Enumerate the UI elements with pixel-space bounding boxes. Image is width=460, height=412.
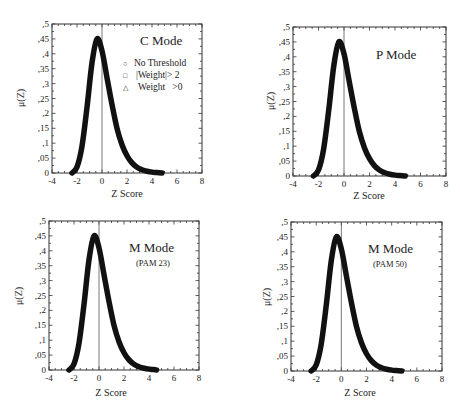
y-tick-label: ,1: [283, 141, 290, 151]
y-tick-label: ,5: [39, 216, 46, 226]
y-tick-label: ,5: [281, 217, 288, 227]
y-tick-label: ,5: [42, 19, 49, 29]
chart-panel-c-mode: -4-2024680,05,1,15,2,25,3,35,4,45,5 C Mo…: [0, 0, 230, 200]
y-tick-label: ,3: [283, 82, 290, 92]
x-tick-label: 6: [175, 176, 180, 186]
y-tick-label: ,4: [281, 247, 288, 257]
y-tick-label: ,45: [277, 232, 289, 242]
x-tick-label: -2: [70, 373, 78, 383]
chart-panel-m-mode-pam50: -4-2024680,05,1,15,2,25,3,35,4,45,5 M Mo…: [230, 200, 460, 412]
x-tick-label: -4: [45, 373, 53, 383]
y-tick-label: ,35: [279, 67, 291, 77]
x-tick-label: 6: [418, 179, 423, 189]
chart-title: M Mode: [368, 241, 413, 256]
y-tick-label: ,25: [38, 94, 50, 104]
y-tick-label: ,05: [38, 153, 50, 163]
legend-marker-square-icon: □: [123, 72, 128, 80]
y-axis-title: μ(Z): [265, 92, 277, 110]
x-axis-title: Z Score: [111, 188, 143, 199]
x-tick-label: 0: [339, 374, 344, 384]
y-tick-label: ,2: [39, 305, 46, 315]
y-tick-label: ,3: [281, 277, 288, 287]
x-tick-label: 6: [415, 374, 420, 384]
chart-svg: -4-2024680,05,1,15,2,25,3,35,4,45,5 P Mo…: [230, 0, 460, 200]
x-tick-label: 8: [440, 374, 445, 384]
legend-label-weight-positive: Weight >0: [138, 82, 183, 92]
x-tick-label: -2: [73, 176, 81, 186]
y-tick-label: 0: [284, 366, 289, 376]
x-tick-label: 4: [393, 179, 398, 189]
y-axis-title: μ(Z): [261, 288, 273, 306]
distribution-curve: [311, 237, 402, 371]
y-tick-label: ,25: [279, 97, 291, 107]
y-tick-label: ,15: [277, 321, 289, 331]
chart-subtitle: (PAM 23): [136, 258, 170, 268]
y-tick-label: ,5: [283, 22, 290, 32]
y-tick-label: ,35: [35, 261, 47, 271]
x-tick-label: 2: [367, 179, 372, 189]
y-tick-label: ,25: [35, 291, 47, 301]
y-axis-title: μ(Z): [13, 287, 25, 305]
y-tick-label: ,35: [38, 64, 50, 74]
y-tick-label: ,4: [283, 52, 290, 62]
x-tick-label: 8: [444, 179, 449, 189]
x-tick-label: 6: [172, 373, 177, 383]
y-tick-label: ,1: [42, 138, 49, 148]
legend-marker-circle-icon: ○: [123, 60, 127, 68]
chart-svg: -4-2024680,05,1,15,2,25,3,35,4,45,5 C Mo…: [0, 0, 230, 200]
y-tick-label: ,4: [42, 49, 49, 59]
x-tick-label: 8: [200, 176, 205, 186]
y-tick-label: ,3: [39, 276, 46, 286]
chart-panel-p-mode: -4-2024680,05,1,15,2,25,3,35,4,45,5 P Mo…: [230, 0, 460, 200]
y-tick-label: ,05: [35, 350, 47, 360]
y-tick-label: ,1: [39, 335, 46, 345]
x-axis-title: Z Score: [95, 387, 127, 398]
x-tick-label: -4: [48, 176, 56, 186]
y-tick-label: ,3: [42, 79, 49, 89]
x-tick-label: 4: [150, 176, 155, 186]
y-tick-label: ,45: [279, 37, 291, 47]
y-axis-title: μ(Z): [15, 89, 27, 107]
x-tick-label: 2: [364, 374, 369, 384]
x-tick-label: -2: [315, 179, 323, 189]
y-tick-label: ,35: [277, 262, 289, 272]
x-tick-label: -4: [289, 179, 297, 189]
chart-title: P Mode: [376, 47, 417, 62]
y-tick-label: ,45: [35, 231, 47, 241]
x-tick-label: 8: [197, 373, 202, 383]
legend-label-no-threshold: No Threshold: [134, 58, 187, 68]
chart-svg: -4-2024680,05,1,15,2,25,3,35,4,45,5 M Mo…: [0, 200, 230, 412]
chart-subtitle: (PAM 50): [373, 259, 407, 269]
y-tick-label: ,15: [279, 126, 291, 136]
x-tick-label: 4: [389, 374, 394, 384]
legend-marker-triangle-icon: △: [123, 84, 129, 92]
y-tick-label: ,2: [42, 108, 49, 118]
y-tick-label: ,45: [38, 34, 50, 44]
x-tick-label: 0: [342, 179, 347, 189]
chart-title: M Mode: [129, 240, 174, 255]
x-axis-title: Z Score: [344, 387, 376, 398]
x-tick-label: 0: [100, 176, 105, 186]
legend: ○ No Threshold □ |Weight|> 2 △ Weight >0: [123, 58, 187, 92]
y-tick-label: 0: [42, 365, 47, 375]
x-tick-label: 0: [97, 373, 102, 383]
y-tick-label: ,15: [35, 320, 47, 330]
y-tick-label: ,4: [39, 246, 46, 256]
y-tick-label: ,15: [38, 123, 50, 133]
y-tick-label: ,2: [281, 306, 288, 316]
y-tick-label: ,05: [279, 156, 291, 166]
x-tick-label: 2: [122, 373, 127, 383]
x-tick-label: -2: [312, 374, 320, 384]
x-tick-label: 2: [125, 176, 130, 186]
chart-title: C Mode: [140, 33, 182, 48]
legend-label-weight-abs: |Weight|> 2: [136, 70, 180, 80]
chart-panel-m-mode-pam23: -4-2024680,05,1,15,2,25,3,35,4,45,5 M Mo…: [0, 200, 230, 412]
y-tick-label: 0: [45, 168, 50, 178]
y-tick-label: 0: [286, 171, 291, 181]
y-tick-label: ,2: [283, 111, 290, 121]
distribution-curve: [69, 236, 157, 370]
x-tick-label: -4: [287, 374, 295, 384]
chart-svg: -4-2024680,05,1,15,2,25,3,35,4,45,5 M Mo…: [230, 200, 460, 412]
y-tick-label: ,1: [281, 336, 288, 346]
y-tick-label: ,25: [277, 292, 289, 302]
